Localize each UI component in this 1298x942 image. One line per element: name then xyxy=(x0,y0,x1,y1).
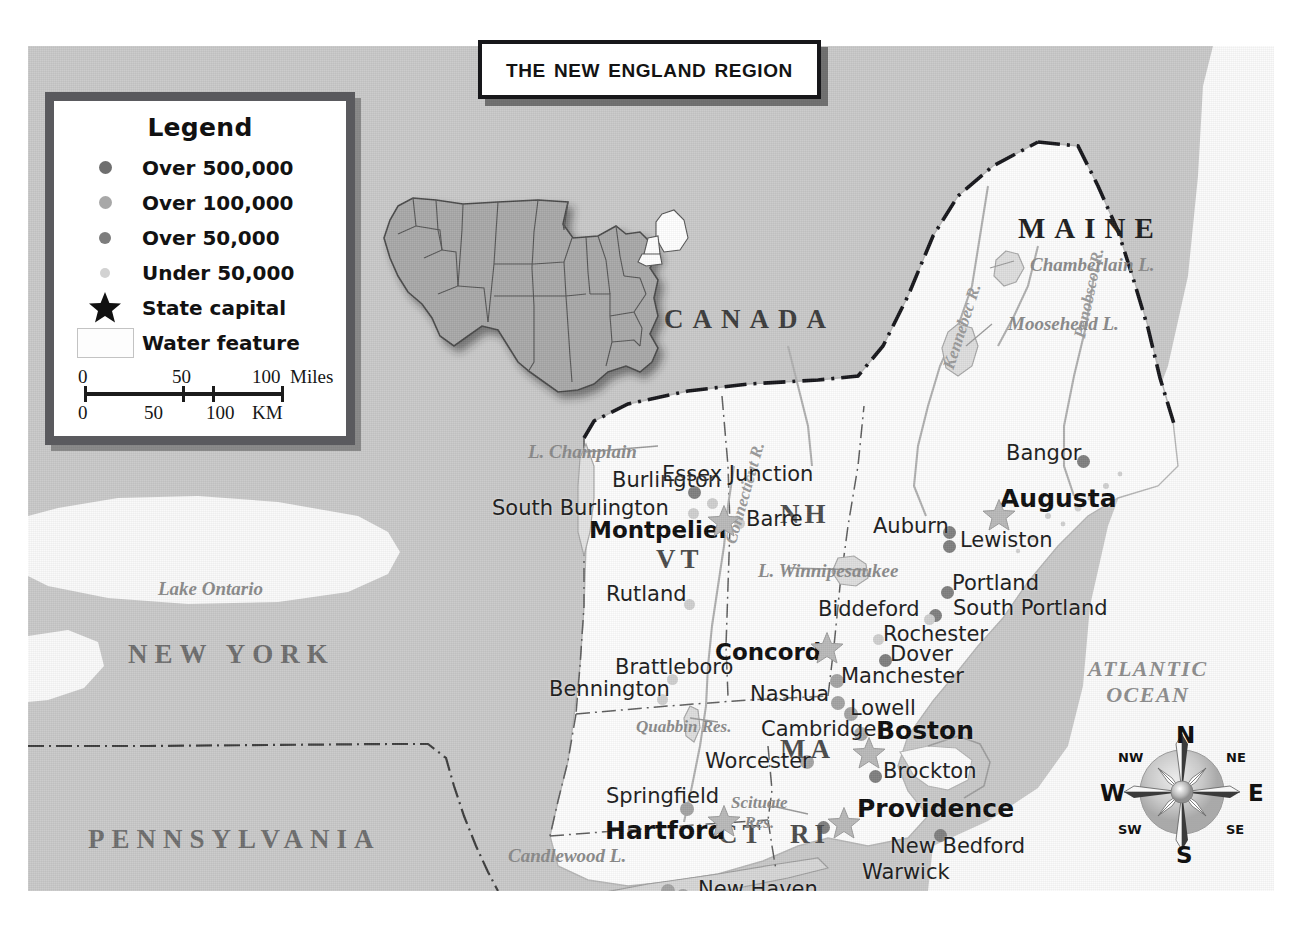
water-label-lake-ontario: Lake Ontario xyxy=(158,579,263,598)
compass-label-nw: NW xyxy=(1118,750,1143,765)
scale-km-tick-50: 50 xyxy=(144,402,163,424)
city-dot-nashua xyxy=(831,696,845,710)
city-label-nashua: Nashua xyxy=(750,684,829,705)
compass-label-n: N xyxy=(1176,722,1195,748)
dot-over-500k-icon xyxy=(68,161,142,174)
state-label-maine: MAINE xyxy=(1018,214,1163,243)
city-label-lewiston: Lewiston xyxy=(960,530,1053,551)
legend-item-under-50k: Under 50,000 xyxy=(54,255,346,290)
capital-star-augusta xyxy=(982,498,1016,532)
scale-tick-km xyxy=(212,386,215,402)
dot-over-50k-icon xyxy=(68,232,142,244)
scale-tick-left xyxy=(84,386,87,402)
scale-km-tick-0: 0 xyxy=(78,402,88,424)
compass-label-s: S xyxy=(1176,842,1193,868)
city-dot-brockton xyxy=(869,770,882,783)
map-page: CANADANEW YORKPENNSYLVANIAMAINEVTNHMACTR… xyxy=(0,0,1298,942)
state-abbr-ri: RI xyxy=(790,821,830,848)
capital-star-concord xyxy=(810,631,844,665)
capital-label-providence: Providence xyxy=(857,796,1014,821)
capital-star-boston xyxy=(852,736,886,770)
scale-km-tick-100: 100 xyxy=(206,402,235,424)
legend-item-water-feature: Water feature xyxy=(54,325,346,360)
water-label-candlewood-l: Candlewood L. xyxy=(508,846,626,865)
legend-panel: Legend Over 500,000 Over 100,000 Over 50… xyxy=(45,92,355,445)
legend-heading: Legend xyxy=(54,113,346,142)
scale-miles-tick-100: 100 xyxy=(252,366,281,388)
city-label-new-haven: New Haven xyxy=(698,879,818,891)
city-dot-lewiston xyxy=(943,540,956,553)
ocean-label-line1: ATLANTIC xyxy=(1088,658,1208,680)
city-label-dover: Dover xyxy=(890,644,953,665)
capital-star-providence xyxy=(827,806,861,840)
ocean-label: ATLANTICOCEAN xyxy=(1088,658,1208,706)
capital-label-augusta: Augusta xyxy=(1000,486,1117,511)
state-abbr-vt: VT xyxy=(656,546,704,573)
map-title-plaque: The New England Region xyxy=(478,40,821,99)
legend-label-over-500k: Over 500,000 xyxy=(142,156,294,180)
city-label-rutland: Rutland xyxy=(606,584,687,605)
water-label-l-champlain: L. Champlain xyxy=(528,442,637,461)
city-label-essex-junction: Essex Junction xyxy=(662,464,813,485)
legend-item-over-50k: Over 50,000 xyxy=(54,220,346,255)
state-label-new-york: NEW YORK xyxy=(128,641,335,668)
capital-star-montpelier xyxy=(707,504,741,538)
scale-miles-tick-0: 0 xyxy=(78,366,88,388)
water-label-quabbin-res: Quabbin Res. xyxy=(636,718,731,735)
ocean-label-line2: OCEAN xyxy=(1088,684,1208,706)
inset-ma-ct-ri xyxy=(638,254,662,266)
compass-rose: N S W E NW NE SW SE xyxy=(1092,718,1272,868)
scale-km-unit: KM xyxy=(252,402,283,424)
compass-label-ne: NE xyxy=(1226,750,1246,765)
dot-under-50k-icon xyxy=(68,268,142,278)
city-label-south-burlington: South Burlington xyxy=(492,498,669,519)
city-label-worcester: Worcester xyxy=(705,751,811,772)
state-label-pennsylvania: PENNSYLVANIA xyxy=(88,826,381,853)
city-label-bangor: Bangor xyxy=(1006,443,1081,464)
capital-star-hartford xyxy=(707,804,741,838)
city-label-brockton: Brockton xyxy=(883,761,977,782)
compass-label-se: SE xyxy=(1226,822,1244,837)
star-icon xyxy=(68,291,142,324)
city-label-south-portland: South Portland xyxy=(953,598,1108,619)
scale-miles-unit: Miles xyxy=(290,366,333,388)
water-label-moosehead-l: Moosehead L. xyxy=(1008,314,1119,333)
legend-item-over-100k: Over 100,000 xyxy=(54,185,346,220)
scale-bar: 0 50 100 Miles 0 50 100 KM xyxy=(66,366,334,426)
scale-miles-tick-50: 50 xyxy=(172,366,191,388)
scale-tick-mid xyxy=(182,386,185,402)
city-label-warwick: Warwick xyxy=(862,862,950,883)
legend-label-state-capital: State capital xyxy=(142,296,286,320)
city-label-brattleboro: Brattleboro xyxy=(615,657,733,678)
city-dot-bridgeport xyxy=(661,884,675,891)
legend-item-over-500k: Over 500,000 xyxy=(54,150,346,185)
city-label-manchester: Manchester xyxy=(841,666,964,687)
dot-over-100k-icon xyxy=(68,196,142,209)
page-title: The New England Region xyxy=(506,53,793,84)
legend-label-over-100k: Over 100,000 xyxy=(142,191,294,215)
compass-label-w: W xyxy=(1100,780,1125,806)
city-label-biddeford: Biddeford xyxy=(818,599,920,620)
legend-label-over-50k: Over 50,000 xyxy=(142,226,280,250)
city-label-auburn: Auburn xyxy=(873,516,949,537)
scale-tick-right xyxy=(281,386,284,402)
capital-label-boston: Boston xyxy=(876,718,974,743)
water-label-l-winnipesaukee: L. Winnipesaukee xyxy=(758,561,898,580)
legend-label-under-50k: Under 50,000 xyxy=(142,261,294,285)
city-label-portland: Portland xyxy=(952,573,1039,594)
city-label-new-bedford: New Bedford xyxy=(890,836,1025,857)
city-label-barre: Barre xyxy=(746,509,803,530)
city-label-bennington: Bennington xyxy=(549,679,670,700)
compass-label-e: E xyxy=(1248,780,1264,806)
water-swatch-icon xyxy=(68,328,142,358)
city-label-springfield: Springfield xyxy=(606,786,719,807)
legend-label-water-feature: Water feature xyxy=(142,331,300,355)
river-label-kennebec-r: Kennebec R. xyxy=(940,282,984,372)
city-label-lowell: Lowell xyxy=(850,698,916,719)
inset-maine xyxy=(656,210,688,252)
compass-label-sw: SW xyxy=(1118,822,1142,837)
legend-item-state-capital: State capital xyxy=(54,290,346,325)
us-locator-inset-map xyxy=(358,176,728,426)
